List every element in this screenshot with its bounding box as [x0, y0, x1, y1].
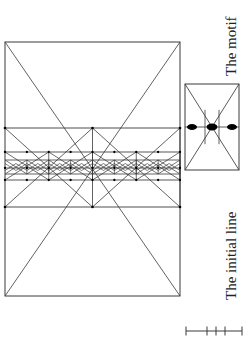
scale-ruler [186, 327, 242, 336]
vertex-dot [179, 151, 181, 153]
motif-dot-1 [187, 124, 197, 130]
vertex-dot [135, 167, 137, 169]
vertex-dot [26, 179, 28, 181]
figure-root: The motif The initial line [0, 0, 248, 345]
vertex-dot [48, 179, 50, 181]
vertex-dot [135, 179, 137, 181]
vertex-dot [48, 167, 50, 169]
vertex-dot [113, 179, 115, 181]
vertex-dot [69, 151, 71, 153]
vertex-dot [69, 167, 71, 169]
motif-dot-3 [227, 124, 237, 130]
vertex-dot [4, 167, 6, 169]
vertex-dot [157, 179, 159, 181]
vertex-dot [113, 167, 115, 169]
label-the-initial-line: The initial line [223, 212, 240, 300]
vertex-dot [26, 167, 28, 169]
vertex-dot-outer [91, 206, 94, 209]
vertex-dot-outer [91, 127, 94, 130]
vertex-dot [179, 167, 181, 169]
fractal-figure-svg [0, 0, 248, 345]
vertex-dot-outer [4, 206, 7, 209]
vertex-dot [91, 151, 93, 153]
vertex-dot [157, 151, 159, 153]
vertex-dot [4, 151, 6, 153]
vertex-dot-outer [179, 127, 182, 130]
motif-diagram[interactable] [185, 84, 239, 170]
vertex-dot [113, 151, 115, 153]
vertex-dot [4, 179, 6, 181]
vertex-dot [179, 179, 181, 181]
motif-dot-2 [207, 124, 218, 131]
vertex-dot [157, 167, 159, 169]
vertex-dot-outer [4, 127, 7, 130]
vertex-dot-outer [179, 206, 182, 209]
vertex-dot [135, 151, 137, 153]
vertex-dot [26, 151, 28, 153]
initial-line-diagram[interactable] [4, 42, 182, 296]
vertex-dot [91, 167, 93, 169]
vertex-dot [91, 179, 93, 181]
vertex-dot [48, 151, 50, 153]
label-the-motif: The motif [223, 16, 240, 76]
vertex-dot [69, 179, 71, 181]
